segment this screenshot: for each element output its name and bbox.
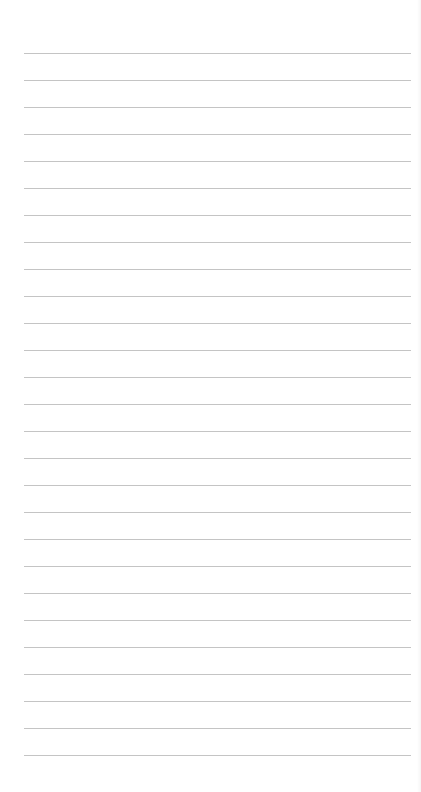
- ruled-line: [24, 269, 411, 270]
- lined-page: [0, 0, 421, 792]
- ruled-line: [24, 566, 411, 567]
- ruled-line: [24, 755, 411, 756]
- ruled-line: [24, 431, 411, 432]
- ruled-line: [24, 728, 411, 729]
- ruled-line: [24, 215, 411, 216]
- ruled-line: [24, 377, 411, 378]
- page-edge-shadow: [417, 0, 421, 792]
- ruled-line: [24, 701, 411, 702]
- ruled-line: [24, 188, 411, 189]
- ruled-line: [24, 539, 411, 540]
- ruled-line: [24, 80, 411, 81]
- ruled-line: [24, 323, 411, 324]
- ruled-line: [24, 593, 411, 594]
- ruled-line: [24, 620, 411, 621]
- ruled-line: [24, 53, 411, 54]
- ruled-line: [24, 350, 411, 351]
- ruled-line: [24, 458, 411, 459]
- ruled-line: [24, 161, 411, 162]
- ruled-line: [24, 404, 411, 405]
- ruled-line: [24, 647, 411, 648]
- ruled-line: [24, 674, 411, 675]
- ruled-line: [24, 485, 411, 486]
- ruled-line: [24, 242, 411, 243]
- ruled-line: [24, 107, 411, 108]
- ruled-line: [24, 296, 411, 297]
- ruled-line: [24, 134, 411, 135]
- ruled-line: [24, 512, 411, 513]
